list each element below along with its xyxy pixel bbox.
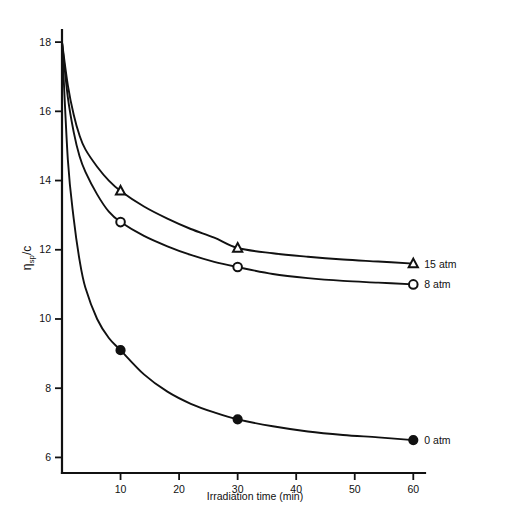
x-tick-label: 10 xyxy=(115,483,127,495)
data-point-8-atm-10 xyxy=(116,218,125,227)
y-axis-title-tail: /c xyxy=(20,246,34,255)
data-point-8-atm-60 xyxy=(409,280,418,289)
y-tick-label: 14 xyxy=(39,174,51,186)
y-tick-label: 12 xyxy=(39,243,51,255)
y-tick-label: 16 xyxy=(39,105,51,117)
x-axis-title: Irradiation time (min) xyxy=(207,490,303,502)
legend-label-0-atm: 0 atm xyxy=(424,434,451,446)
y-tick-label: 8 xyxy=(45,382,51,394)
chart-figure: 681012141618 102030405060 15 atm8 atm0 a… xyxy=(0,0,511,515)
chart-svg: 681012141618 102030405060 15 atm8 atm0 a… xyxy=(0,0,511,515)
x-tick-label: 50 xyxy=(349,483,361,495)
data-point-0-atm-30 xyxy=(233,415,242,424)
y-axis-title-eta: η xyxy=(20,264,34,271)
x-tick-label: 20 xyxy=(173,483,185,495)
data-point-8-atm-30 xyxy=(233,263,242,272)
legend-label-15-atm: 15 atm xyxy=(424,258,456,270)
legend-label-8-atm: 8 atm xyxy=(424,278,451,290)
data-point-0-atm-10 xyxy=(116,346,125,355)
data-point-0-atm-60 xyxy=(409,436,418,445)
y-tick-label: 6 xyxy=(45,451,51,463)
y-tick-label: 10 xyxy=(39,312,51,324)
x-tick-label: 60 xyxy=(407,483,419,495)
y-tick-label: 18 xyxy=(39,36,51,48)
